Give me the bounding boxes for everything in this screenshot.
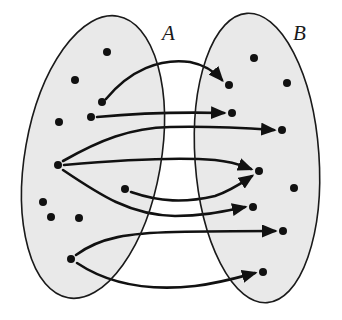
element-dot-b4: [228, 109, 236, 117]
element-dot-b9: [279, 227, 287, 235]
element-dot-a1: [103, 48, 111, 56]
element-dot-b10: [259, 268, 267, 276]
set-b-ellipse: [185, 9, 329, 307]
element-dot-b6: [255, 167, 263, 175]
set-a-label: A: [160, 21, 175, 45]
set-ellipses: [1, 4, 329, 309]
element-dot-a4: [87, 113, 95, 121]
element-dot-a8: [39, 198, 47, 206]
element-dot-b1: [250, 54, 258, 62]
element-dot-a9: [47, 213, 55, 221]
element-dot-b3: [283, 79, 291, 87]
set-b-label: B: [293, 21, 306, 45]
element-dot-a2: [71, 76, 79, 84]
set-mapping-diagram: AB: [0, 0, 342, 320]
set-a-ellipse: [1, 4, 185, 309]
element-dot-a10: [75, 214, 83, 222]
element-dot-a11: [67, 255, 75, 263]
element-dot-b8: [249, 203, 257, 211]
element-dot-a7: [121, 185, 129, 193]
element-dot-a6: [54, 161, 62, 169]
element-dot-b2: [225, 81, 233, 89]
element-dot-b7: [290, 184, 298, 192]
element-dot-a3: [98, 98, 106, 106]
element-dot-a5: [55, 118, 63, 126]
element-dot-b5: [278, 126, 286, 134]
